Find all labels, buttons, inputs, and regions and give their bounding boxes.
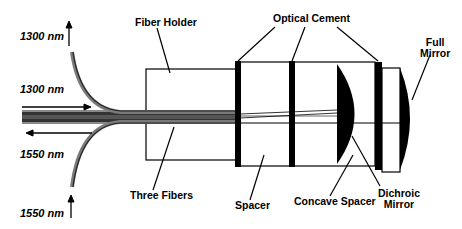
wavelength-bottom-input: 1550 nm	[20, 208, 64, 219]
full-mirror-label: Full Mirror	[420, 37, 450, 59]
concave-spacer-lens	[337, 64, 355, 164]
wavelength-output: 1550 nm	[20, 149, 64, 160]
optical-cement-2	[289, 61, 295, 167]
three-fibers-label: Three Fibers	[130, 190, 193, 201]
three-fibers	[22, 52, 240, 187]
concave-spacer-label: Concave Spacer	[294, 196, 376, 207]
optical-assembly	[235, 61, 410, 172]
optical-cement-label: Optical Cement	[273, 13, 350, 24]
optical-cement-3	[375, 62, 382, 170]
fiber-holder-label: Fiber Holder	[135, 17, 197, 28]
wavelength-input: 1300 nm	[20, 84, 64, 95]
full-mirror-label-line2: Mirror	[420, 48, 450, 59]
full-mirror	[400, 68, 410, 170]
wavelength-top-output: 1300 nm	[20, 31, 64, 42]
dichroic-mirror-label: Dichroic Mirror	[378, 188, 420, 210]
spacer-label: Spacer	[235, 200, 270, 211]
dichroic-mirror-label-line2: Mirror	[378, 199, 420, 210]
